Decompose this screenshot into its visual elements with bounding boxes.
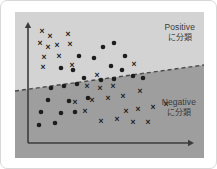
cross-marker: × [70, 60, 75, 70]
cross-marker: × [38, 38, 43, 48]
dot-marker [39, 110, 44, 115]
cross-marker: × [68, 39, 73, 49]
dot-marker [75, 82, 80, 87]
dot-marker [67, 99, 72, 104]
cross-marker: × [46, 42, 51, 52]
dot-marker [141, 76, 146, 81]
cross-marker: × [99, 116, 104, 126]
dot-marker [46, 98, 51, 103]
dot-marker [62, 84, 67, 89]
cross-marker: × [115, 114, 120, 124]
dot-marker [37, 123, 42, 128]
scatter-plot-area: ×××××××××××××××××××××××××××××× Positive … [15, 12, 204, 158]
cross-marker: × [146, 117, 151, 127]
cross-marker: × [136, 104, 141, 114]
cross-marker: × [131, 117, 136, 127]
cross-marker: × [40, 26, 45, 36]
dot-marker [59, 66, 64, 71]
cross-marker: × [73, 97, 78, 107]
dot-marker [123, 54, 128, 59]
cross-marker: × [83, 106, 88, 116]
dot-marker [92, 56, 97, 61]
cross-marker: × [95, 70, 100, 80]
diagram-card: ×××××××××××××××××××××××××××××× Positive … [0, 0, 217, 169]
dot-marker [101, 45, 106, 50]
cross-marker: × [41, 62, 46, 72]
cross-marker: × [42, 52, 47, 62]
cross-marker: × [121, 91, 126, 101]
negative-region-label: Negative に分類 [162, 97, 196, 118]
negative-label-text-ja: に分類 [162, 108, 196, 119]
positive-region-label: Positive に分類 [164, 22, 195, 43]
dot-marker [131, 74, 136, 79]
dot-marker [82, 76, 87, 81]
dot-marker [112, 41, 117, 46]
cross-marker: × [90, 95, 95, 105]
dot-marker [77, 54, 82, 59]
negative-label-text: Negative [162, 97, 196, 107]
dot-marker [53, 121, 58, 126]
dot-marker [120, 68, 125, 73]
cross-marker: × [132, 59, 137, 69]
cross-marker: × [124, 106, 129, 116]
dot-marker [59, 111, 64, 116]
positive-label-text: Positive [164, 22, 195, 32]
dot-marker [73, 110, 78, 115]
cross-marker: × [98, 83, 103, 93]
cross-marker: × [151, 102, 156, 112]
cross-marker: × [85, 81, 90, 91]
dot-marker [109, 64, 114, 69]
positive-label-text-ja: に分類 [164, 33, 195, 44]
dot-marker [49, 86, 54, 91]
cross-marker: × [48, 31, 53, 41]
cross-marker: × [57, 51, 62, 61]
cross-marker: × [111, 81, 116, 91]
cross-marker: × [138, 86, 143, 96]
cross-marker: × [106, 93, 111, 103]
cross-marker: × [66, 29, 71, 39]
cross-marker: × [55, 40, 60, 50]
